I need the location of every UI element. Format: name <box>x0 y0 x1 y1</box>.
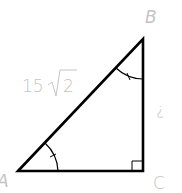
angle-arc-A <box>45 143 58 171</box>
vertex-label-B: B <box>145 9 157 26</box>
hypotenuse-length-label: 15 <box>22 78 44 95</box>
angle-arc-B <box>116 68 143 79</box>
right-angle-mark <box>132 161 143 171</box>
unknown-side-label: ? <box>156 103 164 118</box>
vertex-label-A: A <box>0 173 9 190</box>
vertex-label-C: C <box>153 175 165 192</box>
triangle-ABC <box>18 39 143 171</box>
hypotenuse-radicand: 2 <box>63 78 74 95</box>
triangle-diagram <box>0 0 182 193</box>
